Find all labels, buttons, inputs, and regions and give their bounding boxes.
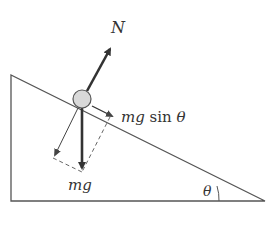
dashed-line-left xyxy=(53,158,82,172)
weight-label: mg xyxy=(68,178,92,193)
perpendicular-component-arrow xyxy=(55,108,78,155)
dashed-line-right xyxy=(82,117,110,172)
parallel-component-mg: mg xyxy=(121,108,145,126)
incline-triangle xyxy=(11,75,265,201)
ball xyxy=(73,90,91,108)
incline-angle-label: θ xyxy=(203,184,211,198)
parallel-component-sin: sin xyxy=(150,108,172,126)
incline-diagram: N mg sin θ mg θ xyxy=(0,0,274,227)
parallel-component-theta: θ xyxy=(177,108,186,126)
normal-force-label: N xyxy=(111,20,125,36)
angle-arc xyxy=(217,186,219,201)
parallel-component-arrow xyxy=(92,106,112,116)
normal-force-arrow xyxy=(87,49,110,91)
parallel-component-label: mg sin θ xyxy=(121,110,186,125)
